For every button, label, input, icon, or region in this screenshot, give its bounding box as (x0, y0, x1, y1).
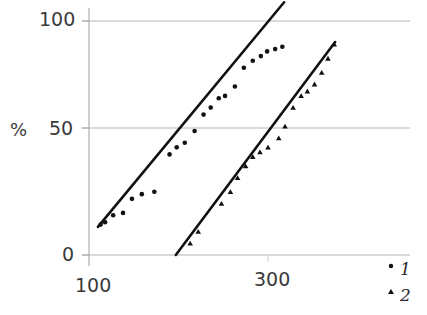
data-point (121, 211, 126, 216)
data-point (273, 47, 278, 52)
data-point (187, 241, 193, 246)
legend-item-2-label: 2 (400, 285, 411, 305)
x-axis-tick-label-100: 100 (75, 274, 111, 296)
legend-marker-circle-icon (389, 264, 393, 268)
data-point (305, 89, 311, 94)
data-point (290, 105, 296, 110)
data-point (140, 192, 145, 197)
scatter-plot-canvas (0, 0, 427, 315)
chart-container: 100 50 0 % 100 300 1 2 (0, 0, 427, 315)
data-point (103, 220, 108, 225)
data-point (216, 96, 221, 101)
data-point (265, 49, 270, 54)
data-point (276, 135, 282, 140)
gridlines (89, 21, 410, 255)
data-point (282, 124, 288, 129)
data-point (265, 145, 271, 150)
data-point (111, 213, 116, 218)
data-point (312, 82, 318, 87)
x-axis-tick-label-300: 300 (254, 268, 290, 290)
data-point (325, 56, 331, 61)
data-point (250, 58, 255, 63)
data-point (219, 201, 225, 206)
series-1-markers (98, 44, 284, 226)
series-2-fit-line (176, 42, 335, 255)
data-point (233, 84, 238, 89)
data-point (152, 190, 157, 195)
legend-item-1-label: 1 (400, 259, 411, 279)
series-1-fit-line (98, 2, 284, 227)
data-point (182, 140, 187, 145)
data-point (228, 189, 234, 194)
y-axis-title: % (10, 119, 27, 140)
y-axis-tick-label-50: 50 (49, 117, 73, 139)
series-2-markers (187, 42, 337, 246)
data-point (280, 44, 285, 49)
data-point (98, 222, 103, 227)
data-point (167, 152, 172, 157)
data-point (130, 197, 135, 202)
data-point (192, 129, 197, 134)
data-point (257, 149, 263, 154)
data-point (298, 93, 304, 98)
data-point (259, 54, 264, 59)
legend-marker-triangle-icon (388, 289, 394, 294)
data-point (319, 70, 325, 75)
data-point (208, 105, 213, 110)
y-axis-tick-label-100: 100 (39, 8, 75, 30)
data-point (201, 112, 206, 117)
data-point (174, 145, 179, 150)
y-axis-tick-label-0: 0 (62, 243, 74, 265)
data-point (223, 94, 228, 99)
data-point (242, 66, 247, 71)
